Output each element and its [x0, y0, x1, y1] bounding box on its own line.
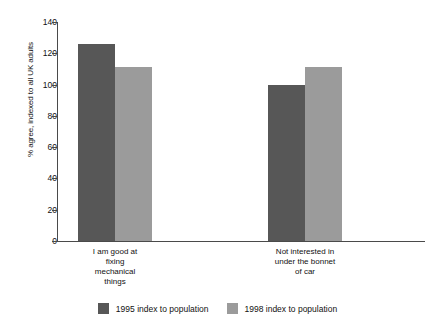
- y-axis-title: % agree, indexed to all UK adults: [26, 10, 35, 190]
- x-category-label-line: Not interested in: [230, 247, 380, 257]
- legend-swatch: [227, 303, 238, 314]
- x-category-label-line: I am good at: [40, 247, 190, 257]
- y-tick-label: 60: [13, 143, 57, 152]
- legend-label: 1998 index to population: [245, 304, 338, 314]
- y-tick-label: 20: [13, 205, 57, 214]
- y-tick-label: 80: [13, 111, 57, 120]
- x-category-label-line: of car: [230, 267, 380, 277]
- legend-entry[interactable]: 1995 index to population: [98, 303, 209, 314]
- legend-label: 1995 index to population: [116, 304, 209, 314]
- x-category-label-line: under the bonnet: [230, 257, 380, 267]
- bar: [305, 67, 342, 241]
- x-category-label: Not interested inunder the bonnetof car: [230, 247, 380, 277]
- x-category-label-line: things: [40, 277, 190, 287]
- legend-swatch: [98, 303, 109, 314]
- y-tick-label: 0: [13, 237, 57, 246]
- y-tick-label: 140: [13, 18, 57, 27]
- bar: [268, 85, 305, 241]
- plot-area: [57, 22, 425, 241]
- bar: [78, 44, 115, 241]
- legend-entry[interactable]: 1998 index to population: [227, 303, 338, 314]
- bar-chart: % agree, indexed to all UK adults 020406…: [0, 0, 435, 329]
- y-tick-label: 100: [13, 80, 57, 89]
- chart-legend: 1995 index to population1998 index to po…: [0, 303, 435, 314]
- x-category-label-line: mechanical: [40, 267, 190, 277]
- bar: [115, 67, 152, 241]
- y-tick-label: 40: [13, 174, 57, 183]
- x-category-label: I am good atfixingmechanicalthings: [40, 247, 190, 287]
- x-category-label-line: fixing: [40, 257, 190, 267]
- x-axis-line: [57, 241, 425, 242]
- y-tick-label: 120: [13, 49, 57, 58]
